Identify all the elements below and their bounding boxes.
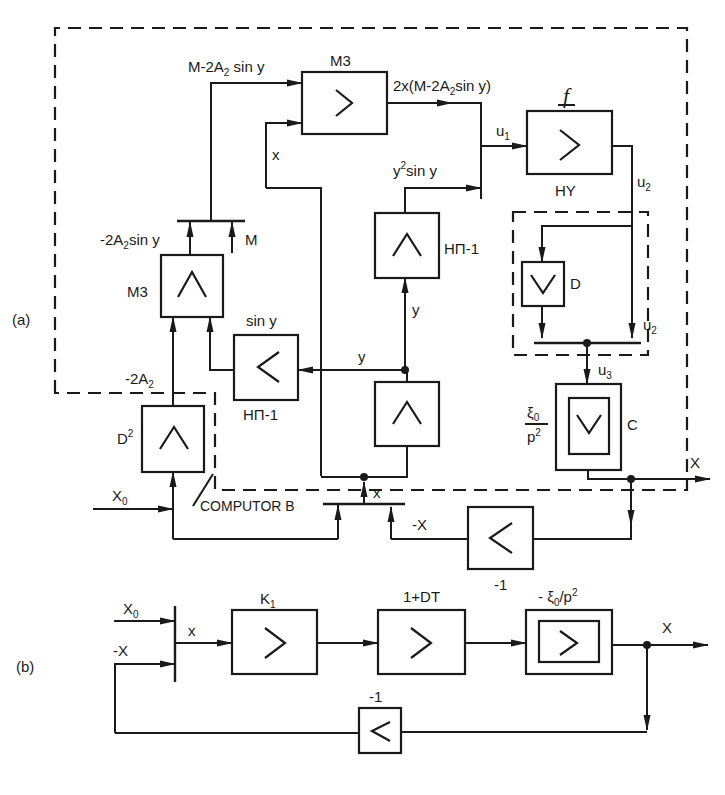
signal-u1: u1: [496, 122, 510, 142]
panel-b-label: (b): [16, 658, 34, 675]
signal-neg2a2siny: -2A2sin y: [100, 231, 160, 251]
p2-label: p2: [527, 427, 541, 445]
signal-x-m3: x: [272, 146, 280, 163]
plant-label: - ξ0/p2: [538, 587, 578, 608]
signal-x-sum: x: [373, 484, 381, 501]
panel-a: (a) M3 f HY HΠ-1 M3: [12, 28, 710, 593]
m3-top-block: M3: [302, 52, 387, 134]
signal-m-input: M: [245, 231, 258, 248]
signal-x-out: X: [690, 454, 700, 471]
lower-wedge-block: [375, 382, 439, 446]
d-label: D: [570, 275, 581, 292]
signal-x-out-b: X: [662, 619, 672, 636]
hy-block: f HY: [527, 83, 612, 199]
panel-a-label: (a): [12, 311, 30, 328]
panel-b: (b) K1 1+DT - ξ0/p2 X: [16, 587, 708, 753]
signal-product: 2x(M-2A2sin y): [393, 77, 491, 97]
c-label: C: [627, 416, 638, 433]
signal-u2-inner: u2: [643, 316, 657, 336]
k1-block: K1: [232, 590, 317, 674]
hpi-upper-label: HΠ-1: [444, 240, 479, 257]
d2-block: D2: [117, 406, 204, 472]
lead-label: 1+DT: [403, 588, 440, 605]
xi0-label: ξ0: [527, 404, 540, 423]
inverter-block: -1: [468, 507, 533, 593]
m3-left-block: M3: [127, 255, 223, 317]
signal-x0-b: X0: [123, 600, 139, 620]
signal-u3: u3: [598, 361, 612, 381]
sin-block-hpi-label: HΠ-1: [243, 406, 278, 423]
signal-y-vertical: y: [412, 301, 420, 318]
m3-left-label: M3: [127, 283, 148, 300]
block-diagram: (a) M3 f HY HΠ-1 M3: [0, 0, 725, 795]
signal-x-sum-b: x: [188, 622, 196, 639]
d2-label: D2: [117, 428, 134, 447]
sin-block: sin y HΠ-1: [234, 312, 298, 423]
signal-x0: X0: [112, 487, 128, 507]
c-block: C ξ0 p2: [525, 384, 638, 470]
hpi-upper-block: HΠ-1: [375, 213, 479, 278]
signal-m-minus: M-2A2 sin y: [188, 58, 265, 78]
m3-top-label: M3: [330, 52, 351, 69]
computor-b-label: COMPUTOR B: [200, 498, 295, 514]
signal-neg2a2: -2A2: [125, 370, 154, 390]
plant-block: - ξ0/p2: [526, 587, 612, 674]
inverter-label: -1: [494, 576, 507, 593]
signal-y-horizontal: y: [358, 348, 366, 365]
k1-label: K1: [260, 590, 276, 610]
signal-neg-x-b: -X: [113, 642, 128, 659]
hy-label: HY: [555, 182, 576, 199]
signal-u2-top: u2: [637, 173, 651, 193]
inverter-block-b: -1: [359, 688, 401, 753]
d-block: D: [522, 262, 581, 306]
sin-block-label: sin y: [246, 312, 277, 329]
signal-neg-x: -X: [412, 516, 427, 533]
signal-y2siny: y2sin y: [393, 160, 437, 179]
inverter-b-label: -1: [369, 688, 382, 705]
lead-block: 1+DT: [378, 588, 465, 674]
